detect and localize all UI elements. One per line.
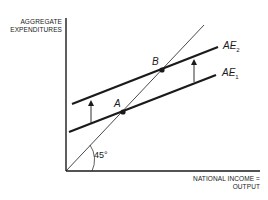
x-axis-label-line2: OUTPUT (180, 183, 260, 191)
point-a-label: A (114, 98, 121, 109)
ae2-label-subscript: 2 (236, 47, 239, 53)
ae1-label-name: AE (222, 67, 235, 78)
y-axis-label-line2: EXPENDITURES (0, 26, 62, 34)
x-axis-label: NATIONAL INCOME = OUTPUT (180, 175, 260, 191)
x-axis-label-line1: NATIONAL INCOME = (180, 175, 260, 183)
y-axis-label-line1: AGGREGATE (0, 18, 62, 26)
angle-label: 45° (94, 150, 108, 160)
upward-arrow-left (88, 100, 94, 123)
ae2-label: AE2 (223, 40, 240, 53)
ae1-label: AE1 (222, 67, 239, 80)
upward-arrow-right (191, 59, 197, 82)
ae1-label-subscript: 1 (235, 74, 238, 80)
point-b-label: B (152, 56, 159, 67)
point-b-marker (159, 67, 164, 72)
ae2-line (72, 47, 218, 104)
y-axis-label: AGGREGATE EXPENDITURES (0, 18, 62, 34)
ae2-label-name: AE (223, 40, 236, 51)
point-a-marker (120, 109, 125, 114)
